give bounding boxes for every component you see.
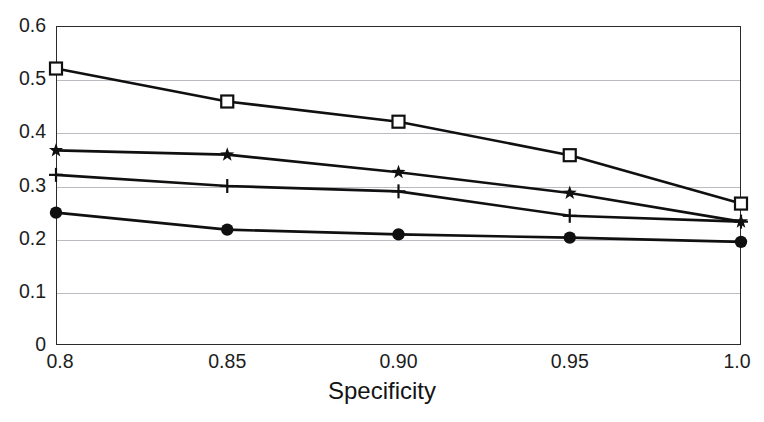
y-axis-tick-label: 0.3 <box>0 176 46 196</box>
x-axis-tick-label: 0.95 <box>551 352 589 372</box>
gridline <box>57 80 740 81</box>
y-axis-tick-label: 0.6 <box>0 16 46 36</box>
x-axis-tick-label: 1.0 <box>723 352 750 372</box>
gridline <box>57 187 740 188</box>
x-axis-title: Specificity <box>0 378 764 404</box>
gridline <box>57 133 740 134</box>
x-axis-tick-label: 0.8 <box>46 352 73 372</box>
y-axis-tick-label: 0.2 <box>0 229 46 249</box>
plot-area <box>56 26 741 345</box>
y-axis-tick-label: 0.5 <box>0 69 46 89</box>
y-axis-tick-label: 0.1 <box>0 282 46 302</box>
gridline <box>57 240 740 241</box>
x-axis-tick-label: 0.90 <box>380 352 418 372</box>
line-chart: 00.10.20.30.40.50.6 0.80.850.900.951.0 S… <box>0 0 764 422</box>
y-axis-tick-label: 0 <box>0 335 46 355</box>
x-axis-tick-label: 0.85 <box>208 352 246 372</box>
y-axis-tick-label: 0.4 <box>0 122 46 142</box>
gridline <box>57 293 740 294</box>
